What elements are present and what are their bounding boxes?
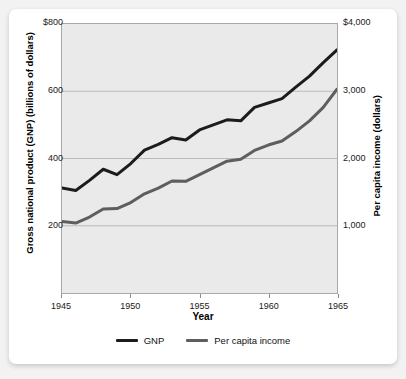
legend-swatch-icon: [186, 339, 208, 342]
legend-label: Per capita income: [214, 335, 290, 346]
y-axis-left-tick-label: 600: [48, 86, 63, 95]
chart-card: 200400600$800 1,0002,0003,000$4,000 1945…: [9, 9, 397, 364]
x-axis-tick-label: 1960: [259, 302, 279, 311]
legend-label: GNP: [144, 335, 165, 346]
y-axis-right-tick-label: $4,000: [343, 18, 371, 27]
series-line-1: [62, 89, 337, 223]
y-axis-left-tick-label: 200: [48, 221, 63, 230]
y-axis-right-tick-label: 3,000: [343, 86, 366, 95]
y-axis-right-tick-label: 2,000: [343, 154, 366, 163]
x-axis-tick-mark: [200, 294, 201, 298]
y-axis-left-title: Gross national product (GNP) (billions o…: [25, 54, 35, 254]
x-axis-tick-label: 1950: [120, 302, 140, 311]
x-axis-tick-mark: [130, 294, 131, 298]
legend-swatch-icon: [116, 339, 138, 342]
series-lines: [62, 50, 337, 223]
legend-item[interactable]: GNP: [116, 335, 165, 346]
y-axis-left-tick-label: $800: [43, 18, 63, 27]
x-axis-tick-label: 1945: [51, 302, 71, 311]
legend-item[interactable]: Per capita income: [186, 335, 290, 346]
x-axis-title: Year: [9, 311, 397, 322]
x-axis-tick-mark: [269, 294, 270, 298]
y-axis-left-tick-label: 400: [48, 154, 63, 163]
chart-legend: GNPPer capita income: [9, 335, 397, 346]
page-background: 200400600$800 1,0002,0003,000$4,000 1945…: [0, 0, 406, 379]
x-axis-tick-label: 1965: [328, 302, 348, 311]
x-axis-tick-mark: [61, 294, 62, 298]
chart-figure: 200400600$800 1,0002,0003,000$4,000 1945…: [9, 9, 397, 364]
plot-area: [61, 23, 338, 294]
x-axis-tick-mark: [338, 294, 339, 298]
gridlines: [62, 91, 337, 226]
chart-canvas: [62, 24, 337, 293]
series-line-0: [62, 50, 337, 191]
y-axis-right-title: Per capita income (dollars): [372, 56, 382, 256]
x-axis-tick-label: 1955: [189, 302, 209, 311]
y-axis-right-tick-label: 1,000: [343, 221, 366, 230]
